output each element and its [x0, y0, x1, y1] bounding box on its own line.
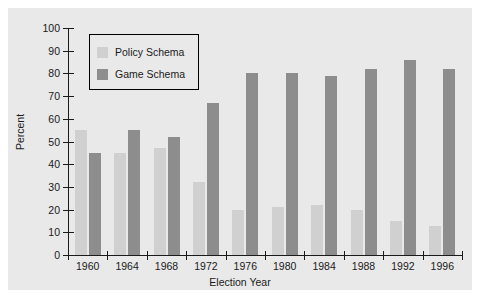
bar-1992-game-schema [404, 60, 416, 255]
y-axis-tick [63, 119, 74, 120]
y-axis-tick [63, 187, 74, 188]
legend-item-game-schema: Game Schema [97, 67, 185, 81]
y-axis-tick-label: 20 [20, 205, 60, 216]
legend-swatch-game-schema [97, 69, 108, 80]
bar-1960-game-schema [89, 153, 101, 255]
y-axis-tick [63, 96, 74, 97]
bar-1984-game-schema [325, 76, 337, 255]
x-axis-tick [107, 251, 108, 260]
y-axis-tick-label: 70 [20, 91, 60, 102]
y-axis-tick [63, 164, 74, 165]
y-axis-tick [63, 142, 74, 143]
bar-1988-policy-schema [351, 210, 363, 255]
bar-1996-game-schema [443, 69, 455, 255]
y-axis-tick [63, 73, 74, 74]
x-axis-tick [462, 251, 463, 260]
x-axis-tick-label: 1968 [147, 261, 186, 272]
legend-swatch-policy-schema [97, 47, 108, 58]
x-axis-tick-label: 1984 [304, 261, 343, 272]
bar-1960-policy-schema [75, 130, 87, 255]
x-axis-tick [147, 251, 148, 260]
x-axis-tick-label: 1972 [186, 261, 225, 272]
bar-1964-policy-schema [114, 153, 126, 255]
y-axis-labels: 0102030405060708090100 [16, 8, 60, 256]
bar-1996-policy-schema [429, 226, 441, 256]
chart-legend: Policy Schema Game Schema [89, 34, 199, 90]
y-axis-tick [63, 232, 74, 233]
y-axis-tick-label: 40 [20, 159, 60, 170]
x-axis-tick-label: 1992 [383, 261, 422, 272]
bar-1972-policy-schema [193, 182, 205, 255]
x-axis-tick [383, 251, 384, 260]
legend-label-policy-schema: Policy Schema [115, 46, 184, 58]
y-axis-tick [63, 210, 74, 211]
y-axis-tick [63, 51, 74, 52]
bar-1976-policy-schema [232, 210, 244, 255]
bar-1984-policy-schema [311, 205, 323, 255]
x-axis-tick-label: 1988 [344, 261, 383, 272]
x-axis-tick [186, 251, 187, 260]
bar-1968-game-schema [168, 137, 180, 255]
y-axis-tick-label: 0 [20, 250, 60, 261]
bar-1980-game-schema [286, 73, 298, 255]
x-axis-title: Election Year [8, 276, 472, 288]
y-axis-tick-label: 90 [20, 46, 60, 57]
bar-1988-game-schema [365, 69, 377, 255]
x-axis-tick [68, 251, 69, 260]
x-axis-tick [265, 251, 266, 260]
x-axis-tick [226, 251, 227, 260]
bar-1992-policy-schema [390, 221, 402, 255]
bar-1972-game-schema [207, 103, 219, 255]
bar-1964-game-schema [128, 130, 140, 255]
y-axis-tick-label: 50 [20, 137, 60, 148]
legend-label-game-schema: Game Schema [115, 68, 185, 80]
bar-1968-policy-schema [154, 148, 166, 255]
x-axis-tick [344, 251, 345, 260]
y-axis-tick-label: 60 [20, 114, 60, 125]
legend-item-policy-schema: Policy Schema [97, 45, 184, 59]
x-axis-tick [423, 251, 424, 260]
x-axis-tick-label: 1980 [265, 261, 304, 272]
chart-figure: Percent 0102030405060708090100 Election … [8, 8, 472, 290]
x-axis-tick-label: 1960 [68, 261, 107, 272]
x-axis-tick-label: 1976 [226, 261, 265, 272]
x-axis-tick-label: 1996 [423, 261, 462, 272]
y-axis-tick-label: 10 [20, 227, 60, 238]
y-axis-tick-label: 100 [20, 23, 60, 34]
x-axis-tick-label: 1964 [107, 261, 146, 272]
x-axis-tick [304, 251, 305, 260]
y-axis-tick-label: 80 [20, 68, 60, 79]
bar-1980-policy-schema [272, 207, 284, 255]
y-axis-tick [63, 28, 74, 29]
y-axis-tick-label: 30 [20, 182, 60, 193]
bar-1976-game-schema [246, 73, 258, 255]
